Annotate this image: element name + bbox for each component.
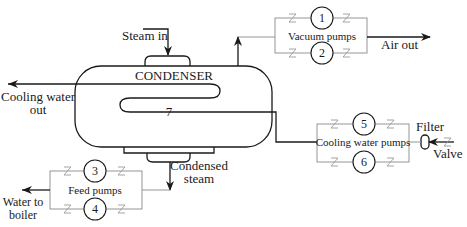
cooling-water-in-line [272, 112, 317, 142]
water-to-boiler-label-line2: boiler [9, 208, 37, 222]
water-to-boiler-label-line1: Water to [3, 195, 44, 209]
filter-icon [421, 135, 429, 149]
feed-pumps-label: Feed pumps [68, 184, 121, 196]
coil-number: 7 [166, 104, 173, 119]
vacuum-pumps-label: Vacuum pumps [288, 30, 356, 42]
filter-label: Filter [416, 119, 445, 134]
steam-in-label: Steam in [122, 28, 168, 43]
pump-6-number: 6 [361, 155, 367, 169]
pump-5-number: 5 [361, 117, 367, 131]
steam-inlet-dome [145, 56, 190, 66]
pump-2-number: 2 [319, 46, 325, 60]
pump-4-number: 4 [92, 202, 98, 216]
pump-1-number: 1 [319, 11, 325, 25]
hotwell-base [124, 147, 214, 153]
condenser-diagram: Steam in CONDENSER 7 Cooling water out C… [0, 0, 467, 227]
air-extraction-line [238, 37, 275, 66]
cooling-water-pumps-label: Cooling water pumps [316, 136, 411, 148]
condensed-steam-label-line2: steam [184, 171, 214, 186]
pump-3-number: 3 [92, 164, 98, 178]
air-out-label: Air out [381, 37, 419, 52]
condenser-label: CONDENSER [135, 68, 213, 83]
cooling-water-out-label-line2: out [30, 102, 47, 117]
valve-label: Valve [433, 146, 463, 161]
